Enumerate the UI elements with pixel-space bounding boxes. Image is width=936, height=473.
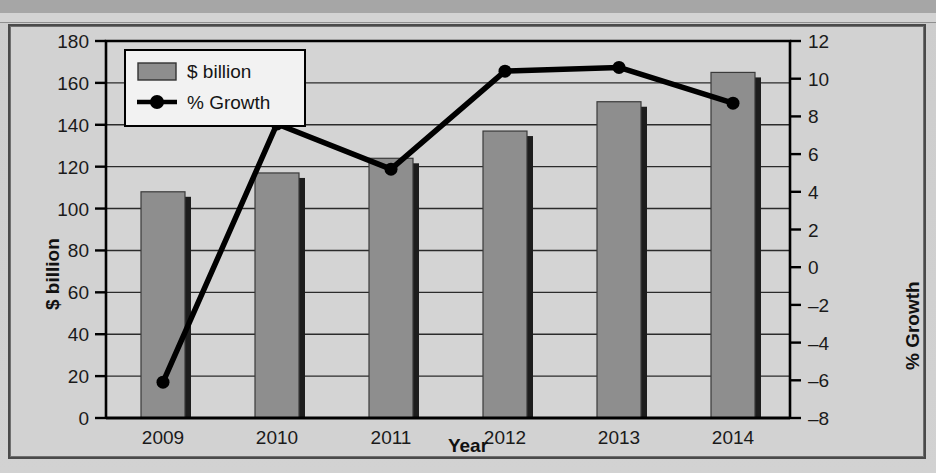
svg-text:0: 0	[78, 408, 89, 429]
svg-text:80: 80	[68, 240, 89, 261]
y-axis-title-wrap: $ billion	[18, 150, 48, 310]
svg-text:60: 60	[68, 282, 89, 303]
svg-text:20: 20	[68, 366, 89, 387]
y2-axis-title: % Growth	[902, 281, 924, 370]
y-axis-title: $ billion	[42, 238, 64, 310]
chart-legend: $ billion% Growth	[125, 50, 305, 126]
svg-text:0: 0	[808, 257, 819, 278]
bar	[711, 72, 755, 418]
line-marker	[157, 376, 170, 389]
svg-text:–4: –4	[808, 333, 830, 354]
svg-text:160: 160	[57, 73, 89, 94]
legend-label-line: % Growth	[187, 92, 270, 113]
scanned-page: This is a and the Exhibit 02040608010012…	[0, 0, 936, 473]
legend-bar-swatch	[138, 63, 176, 80]
svg-text:12: 12	[808, 31, 829, 52]
svg-text:40: 40	[68, 324, 89, 345]
svg-text:–2: –2	[808, 295, 829, 316]
bar	[255, 173, 299, 418]
right-axis-group: –8–6–4–2024681012	[790, 31, 830, 429]
svg-text:–6: –6	[808, 370, 829, 391]
line-marker	[613, 61, 626, 74]
line-marker	[727, 97, 740, 110]
bar	[597, 102, 641, 418]
svg-text:4: 4	[808, 182, 819, 203]
svg-text:120: 120	[57, 157, 89, 178]
svg-text:180: 180	[57, 31, 89, 52]
line-marker	[499, 65, 512, 78]
x-axis-title: Year	[0, 435, 936, 457]
line-marker	[385, 163, 398, 176]
svg-text:100: 100	[57, 199, 89, 220]
svg-text:8: 8	[808, 106, 819, 127]
y2-axis-title-wrap: % Growth	[880, 200, 910, 380]
svg-text:10: 10	[808, 69, 829, 90]
left-axis-group: 020406080100120140160180	[57, 31, 106, 429]
bar	[483, 131, 527, 418]
svg-text:–8: –8	[808, 408, 829, 429]
svg-text:6: 6	[808, 144, 819, 165]
svg-text:140: 140	[57, 115, 89, 136]
legend-label-bar: $ billion	[187, 61, 251, 82]
bar	[369, 158, 413, 418]
combo-chart: 020406080100120140160180 –8–6–4–20246810…	[0, 0, 936, 473]
svg-text:2: 2	[808, 220, 819, 241]
